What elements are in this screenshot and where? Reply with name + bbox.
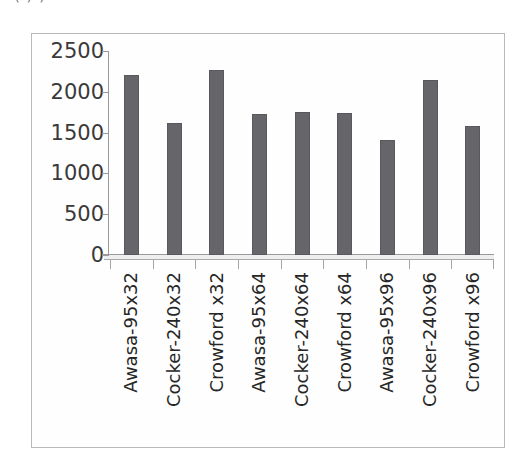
bar[interactable] bbox=[337, 113, 352, 255]
bar-slot bbox=[195, 51, 238, 255]
clipped-caption-fragment: ( ) ) bbox=[0, 0, 530, 8]
bar-slot bbox=[409, 51, 452, 255]
bar-slot bbox=[323, 51, 366, 255]
x-axis-category-label: Awasa-95x96 bbox=[378, 272, 396, 393]
x-axis-tick-mark bbox=[153, 260, 196, 270]
bar-slot bbox=[153, 51, 196, 255]
x-axis-category-label: Crowford x96 bbox=[464, 272, 482, 392]
x-axis-category-label: Cocker-240x64 bbox=[293, 272, 311, 407]
x-axis-tick-mark bbox=[110, 260, 153, 270]
bar-slot bbox=[366, 51, 409, 255]
bar-chart-plot-area: 05001000150020002500 Awasa-95x32Cocker-2… bbox=[32, 34, 506, 449]
bar-slot bbox=[281, 51, 324, 255]
x-axis-label-cell: Awasa-95x64 bbox=[238, 272, 281, 442]
x-axis-category-label: Cocker-240x32 bbox=[165, 272, 183, 407]
x-axis-tick-mark bbox=[366, 260, 409, 270]
x-axis-ticks bbox=[110, 260, 494, 270]
bar-slot bbox=[110, 51, 153, 255]
y-axis-tick-mark bbox=[102, 92, 109, 93]
bar[interactable] bbox=[209, 70, 224, 255]
bar[interactable] bbox=[252, 114, 267, 255]
x-axis-tick-mark bbox=[323, 260, 366, 270]
bar-slot bbox=[451, 51, 494, 255]
y-axis-tick-label: 1500 bbox=[51, 122, 104, 143]
y-axis-tick-mark bbox=[102, 51, 109, 52]
x-axis-label-cell: Awasa-95x96 bbox=[366, 272, 409, 442]
bar[interactable] bbox=[295, 112, 310, 255]
y-axis-tick-mark bbox=[102, 173, 109, 174]
x-axis-category-label: Cocker-240x96 bbox=[421, 272, 439, 407]
y-axis-tick-label: 1000 bbox=[51, 163, 104, 184]
bar[interactable] bbox=[465, 126, 480, 255]
x-axis-category-label: Awasa-95x32 bbox=[122, 272, 140, 393]
bar-series bbox=[110, 51, 494, 255]
bar[interactable] bbox=[380, 140, 395, 255]
x-axis-tick-mark bbox=[409, 260, 452, 270]
x-axis-category-labels: Awasa-95x32Cocker-240x32Crowford x32Awas… bbox=[110, 272, 494, 442]
x-axis-category-label: Awasa-95x64 bbox=[250, 272, 268, 393]
x-axis-label-cell: Cocker-240x32 bbox=[153, 272, 196, 442]
y-axis-tick-label: 500 bbox=[64, 204, 104, 225]
x-axis-tick-mark bbox=[238, 260, 281, 270]
x-axis-tick-mark bbox=[451, 260, 494, 270]
y-axis-tick-mark bbox=[102, 255, 109, 256]
x-axis-label-cell: Cocker-240x64 bbox=[281, 272, 324, 442]
x-axis-label-cell: Crowford x32 bbox=[195, 272, 238, 442]
y-axis-tick-mark bbox=[102, 133, 109, 134]
y-axis-tick-labels: 05001000150020002500 bbox=[32, 34, 108, 274]
y-axis-tick-mark bbox=[102, 214, 109, 215]
x-axis-label-cell: Awasa-95x32 bbox=[110, 272, 153, 442]
x-axis-category-label: Crowford x32 bbox=[208, 272, 226, 392]
chart-frame: 05001000150020002500 Awasa-95x32Cocker-2… bbox=[31, 33, 505, 448]
bar[interactable] bbox=[124, 75, 139, 255]
bar-slot bbox=[238, 51, 281, 255]
x-axis-label-cell: Crowford x96 bbox=[451, 272, 494, 442]
x-axis-label-cell: Crowford x64 bbox=[323, 272, 366, 442]
y-axis-line bbox=[108, 51, 109, 255]
y-axis-tick-label: 2000 bbox=[51, 81, 104, 102]
bar[interactable] bbox=[423, 80, 438, 255]
bar[interactable] bbox=[167, 123, 182, 255]
x-axis-category-label: Crowford x64 bbox=[336, 272, 354, 392]
x-axis-tick-mark bbox=[195, 260, 238, 270]
x-axis-tick-mark bbox=[281, 260, 324, 270]
x-axis-label-cell: Cocker-240x96 bbox=[409, 272, 452, 442]
y-axis-tick-label: 2500 bbox=[51, 41, 104, 62]
